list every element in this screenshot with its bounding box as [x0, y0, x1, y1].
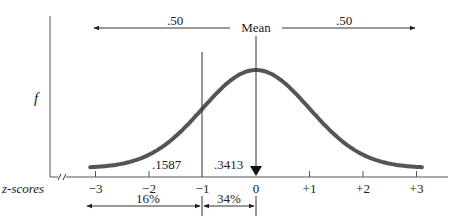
axis-break-mark — [58, 174, 66, 180]
tick-label: 0 — [253, 181, 260, 196]
tick-label: +1 — [303, 181, 317, 196]
percent-below-minus1: 16% — [136, 191, 160, 206]
normal-curve-diagram: .50 .50 Mean f z-scores −3−2−10+1+2+3 .1… — [0, 0, 464, 221]
tick-label: −1 — [196, 181, 210, 196]
left-half-proportion: .50 — [167, 13, 183, 28]
tick-label: +3 — [410, 181, 424, 196]
y-axis-label: f — [34, 90, 40, 106]
mean-arrow-icon — [250, 166, 262, 176]
mean-label: Mean — [241, 20, 271, 35]
right-half-proportion: .50 — [336, 13, 352, 28]
area-minus1-to-mean: .3413 — [214, 157, 243, 172]
area-below-minus1: .1587 — [152, 157, 182, 172]
x-axis-label: z-scores — [1, 181, 44, 196]
tick-label: +2 — [356, 181, 370, 196]
tick-label: −3 — [89, 181, 103, 196]
percent-minus1-to-mean: 34% — [217, 191, 241, 206]
